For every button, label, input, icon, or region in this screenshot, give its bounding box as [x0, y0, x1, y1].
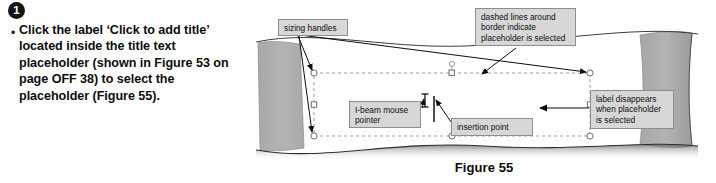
callout-label-disappears: label disappears when placeholder is sel… [590, 90, 674, 129]
callout-dashed-border: dashed lines around border indicate plac… [475, 8, 576, 46]
sizing-handle-top-left[interactable] [311, 70, 317, 76]
callout-insertion-point: insertion point [451, 118, 533, 136]
sizing-handle-middle-left[interactable] [311, 102, 316, 107]
callout-ibeam-pointer: I-beam mouse pointer [349, 101, 421, 128]
sizing-handle-bottom-right[interactable] [587, 133, 593, 139]
figure-block: sizing handles dashed lines around borde… [252, 0, 716, 183]
callout-sizing-handles: sizing handles [278, 19, 348, 36]
step-instruction-text: Click the label ‘Click to add title’ loc… [19, 22, 247, 104]
page-left-shadow-band [258, 41, 304, 150]
sizing-handle-bottom-left[interactable] [311, 133, 317, 139]
rotation-handle-icon[interactable] [449, 61, 454, 66]
figure-caption: Figure 55 [252, 160, 716, 175]
step-instruction-block: 1 • Click the label ‘Click to add title’… [0, 0, 250, 183]
sizing-handle-top-right[interactable] [587, 70, 593, 76]
sizing-handle-top-center[interactable] [449, 70, 454, 75]
step-number-badge: 1 [8, 2, 25, 19]
bullet-glyph: • [11, 27, 15, 39]
